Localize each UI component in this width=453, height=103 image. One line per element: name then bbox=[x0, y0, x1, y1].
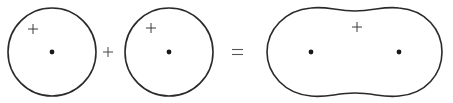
merged-blob-outline bbox=[267, 8, 442, 97]
diagram-canvas bbox=[0, 0, 453, 103]
plus-operator-icon bbox=[103, 47, 113, 57]
circle-2 bbox=[125, 8, 213, 96]
merged-blob-left-center-dot bbox=[309, 50, 314, 55]
circle-2-plus-mark-icon bbox=[146, 23, 156, 33]
circle-1-plus-mark-icon bbox=[28, 24, 38, 34]
circle-2-center-dot bbox=[167, 50, 172, 55]
merged-blob bbox=[267, 8, 442, 97]
circle-1 bbox=[8, 8, 96, 96]
equals-operator-icon bbox=[232, 50, 243, 55]
circle-1-center-dot bbox=[50, 50, 55, 55]
merged-blob-plus-mark-icon bbox=[352, 22, 362, 32]
merged-blob-right-center-dot bbox=[397, 50, 402, 55]
